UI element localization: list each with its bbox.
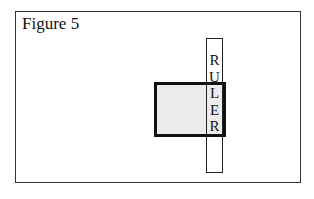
ruler-letter: R [209,118,219,135]
ruler-label: R U L E R [206,52,223,135]
ruler-letter: R [209,52,219,69]
ruler-letter: E [210,102,219,119]
figure-title: Figure 5 [22,14,79,34]
ruler-letter: L [210,85,219,102]
ruler-letter: U [209,69,220,86]
